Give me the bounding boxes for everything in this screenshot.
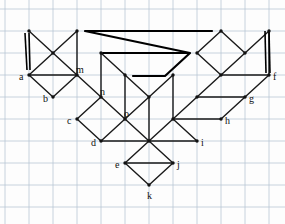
graph-edge (197, 53, 221, 75)
graph-edge (197, 31, 221, 53)
right-double-line (265, 31, 266, 73)
graph-edge (221, 31, 245, 53)
graph-node-unlabeled[interactable] (219, 29, 222, 32)
graph-edge (77, 119, 101, 141)
graph-edge (53, 31, 77, 53)
graph-node-n[interactable] (99, 95, 102, 98)
graph-edge (29, 31, 53, 53)
left-double-line (29, 33, 30, 70)
graph-node-unlabeled[interactable] (243, 51, 246, 54)
graph-edge (125, 163, 149, 185)
graph-edge (101, 97, 125, 119)
graph-node-unlabeled[interactable] (171, 117, 174, 120)
graph-node-b[interactable] (51, 95, 54, 98)
graph-node-k[interactable] (147, 183, 150, 186)
graph-node-unlabeled[interactable] (147, 95, 150, 98)
graph-node-unlabeled[interactable] (195, 51, 198, 54)
graph-edge (173, 119, 197, 141)
graph-edge (77, 75, 101, 97)
graph-node-j[interactable] (171, 161, 174, 164)
graph-edge (173, 97, 197, 119)
graph-node-f[interactable] (267, 73, 270, 76)
graph-edge (101, 119, 125, 141)
graph-node-unlabeled[interactable] (75, 29, 78, 32)
graph-node-unlabeled[interactable] (267, 29, 270, 32)
graph-node-m[interactable] (75, 73, 78, 76)
graph-node-unlabeled[interactable] (27, 29, 30, 32)
graph-edge (149, 163, 173, 185)
graph-edge (149, 119, 173, 141)
graph-node-g[interactable] (243, 95, 246, 98)
left-double-line (25, 33, 27, 70)
graph-node-a[interactable] (27, 73, 30, 76)
graph-node-unlabeled[interactable] (123, 73, 126, 76)
edge-layer (0, 0, 285, 224)
diagram-canvas: abcdefghijkmno (0, 0, 285, 224)
graph-node-c[interactable] (75, 117, 78, 120)
graph-node-d[interactable] (99, 139, 102, 142)
graph-node-unlabeled[interactable] (147, 139, 150, 142)
graph-node-unlabeled[interactable] (51, 51, 54, 54)
graph-node-unlabeled[interactable] (195, 95, 198, 98)
graph-edge (29, 75, 53, 97)
graph-node-i[interactable] (195, 139, 198, 142)
graph-node-unlabeled[interactable] (219, 73, 222, 76)
graph-node-e[interactable] (123, 161, 126, 164)
graph-edge (149, 141, 173, 163)
graph-node-unlabeled[interactable] (171, 73, 174, 76)
graph-edge (125, 119, 149, 141)
graph-edge (101, 53, 125, 75)
graph-edge (245, 75, 269, 97)
graph-node-o[interactable] (123, 117, 126, 120)
graph-node-unlabeled[interactable] (99, 51, 102, 54)
bold-zigzag-path (85, 31, 212, 76)
graph-edge (125, 75, 149, 97)
graph-edge (53, 75, 77, 97)
graph-node-h[interactable] (219, 117, 222, 120)
graph-edge (149, 75, 173, 97)
graph-edge (53, 53, 77, 75)
graph-edge (77, 97, 101, 119)
graph-edge (221, 53, 245, 75)
graph-edge (125, 141, 149, 163)
graph-edge (29, 53, 53, 75)
graph-edge (125, 97, 149, 119)
right-double-line (269, 31, 270, 73)
graph-edge (197, 75, 221, 97)
graph-edge (221, 97, 245, 119)
